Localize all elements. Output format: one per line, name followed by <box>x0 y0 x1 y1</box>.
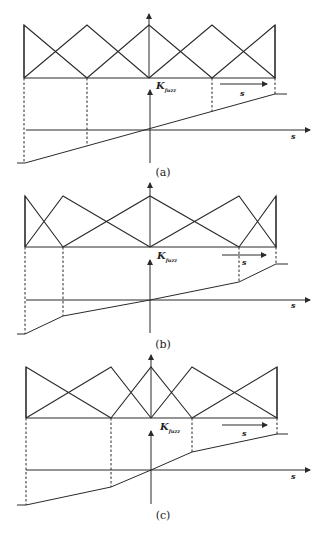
s-arrow-label-c: s <box>242 428 247 438</box>
panel-caption-c: (c) <box>156 509 171 522</box>
k-fuzz-curve-b <box>17 264 288 334</box>
s-axis-label-b: s <box>291 300 296 310</box>
s-axis-label-a: s <box>291 131 296 141</box>
k-fuzz-label-a: Kfuzz <box>156 80 176 93</box>
s-arrow-label-a: s <box>240 88 245 98</box>
s-axis-label-c: s <box>291 471 296 481</box>
s-arrow-label-b: s <box>242 257 247 267</box>
k-fuzz-label-b: Kfuzz <box>157 250 177 263</box>
k-fuzz-curve-a <box>17 94 287 163</box>
k-fuzz-label-c: Kfuzz <box>160 421 180 434</box>
panel-caption-b: (b) <box>155 338 171 351</box>
figure: Kfuzz s s (a) Kfuzz s s (b) Kfuzz s s (c… <box>0 0 329 533</box>
panel-caption-a: (a) <box>155 166 170 179</box>
